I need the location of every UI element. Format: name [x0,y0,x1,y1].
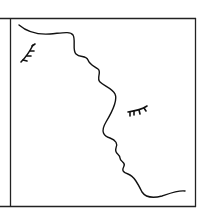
frame [0,18,196,207]
line-art-figure [0,0,207,223]
left-eye-lashes-icon [21,44,35,62]
right-eye-lashes-icon [128,106,147,116]
face-profile-line [19,25,185,197]
